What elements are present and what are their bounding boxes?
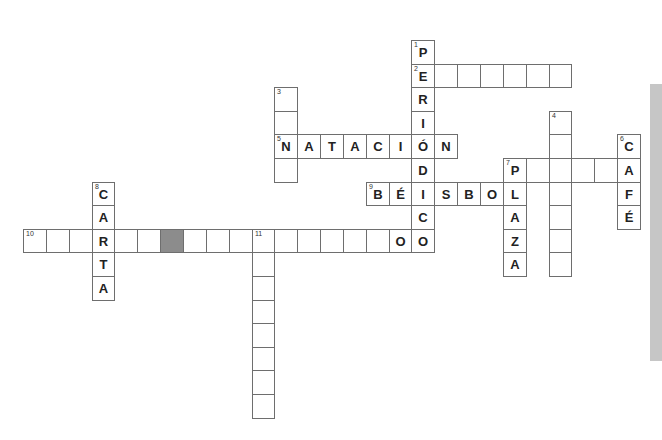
cell-letter: R — [418, 92, 427, 107]
crossword-cell[interactable]: A — [617, 158, 641, 183]
crossword-cell[interactable]: 7P — [503, 158, 527, 183]
clue-number: 9 — [369, 183, 373, 191]
cell-letter: C — [99, 187, 108, 202]
cell-letter: C — [373, 139, 382, 154]
cell-letter: O — [487, 187, 497, 202]
crossword-cell[interactable]: D — [411, 158, 435, 183]
crossword-cell[interactable] — [549, 205, 572, 230]
crossword-cell[interactable] — [137, 229, 161, 253]
cell-letter: L — [511, 187, 519, 202]
crossword-cell[interactable]: A — [297, 134, 321, 159]
crossword-cell[interactable]: A — [92, 205, 115, 230]
crossword-cell[interactable]: T — [320, 134, 344, 159]
crossword-cell[interactable]: Ó — [411, 134, 435, 159]
crossword-cell[interactable] — [549, 134, 572, 159]
crossword-cell[interactable]: 11 — [252, 229, 275, 253]
crossword-cell[interactable] — [320, 229, 344, 253]
crossword-cell[interactable]: Z — [503, 229, 527, 253]
crossword-cell[interactable] — [252, 394, 275, 419]
crossword-cell[interactable]: N — [434, 134, 458, 159]
shaded-cell — [160, 229, 184, 253]
crossword-cell[interactable]: A — [503, 205, 527, 230]
crossword-cell[interactable] — [252, 300, 275, 324]
crossword-cell[interactable] — [457, 64, 481, 88]
crossword-cell[interactable]: R — [92, 229, 115, 253]
crossword-cell[interactable] — [549, 64, 572, 88]
crossword-cell[interactable] — [274, 158, 298, 183]
crossword-cell[interactable] — [274, 229, 298, 253]
crossword-cell[interactable] — [114, 229, 138, 253]
crossword-cell[interactable]: 5N — [274, 134, 298, 159]
crossword-cell[interactable]: O — [389, 229, 412, 253]
clue-number: 2 — [414, 65, 418, 73]
crossword-cell[interactable] — [229, 229, 253, 253]
crossword-cell[interactable]: B — [457, 182, 481, 206]
crossword-cell[interactable]: R — [411, 87, 435, 112]
crossword-cell[interactable] — [252, 323, 275, 348]
crossword-cell[interactable]: I — [389, 134, 412, 159]
clue-number: 6 — [620, 135, 624, 143]
crossword-cell[interactable] — [526, 158, 550, 183]
crossword-cell[interactable]: C — [366, 134, 390, 159]
crossword-cell[interactable]: O — [411, 229, 435, 253]
crossword-cell[interactable] — [571, 158, 595, 183]
crossword-cell[interactable]: T — [92, 252, 115, 277]
clue-number: 11 — [255, 230, 262, 238]
crossword-cell[interactable] — [549, 252, 572, 277]
crossword-cell[interactable] — [594, 158, 618, 183]
cell-letter: T — [328, 139, 336, 154]
crossword-cell[interactable]: 6C — [617, 134, 641, 159]
cell-letter: I — [399, 139, 403, 154]
crossword-cell[interactable] — [183, 229, 207, 253]
crossword-cell[interactable] — [297, 229, 321, 253]
cell-letter: I — [421, 187, 425, 202]
crossword-cell[interactable] — [480, 64, 504, 88]
crossword-cell[interactable] — [252, 347, 275, 371]
cell-letter: S — [442, 187, 451, 202]
clue-number: 7 — [506, 159, 510, 167]
crossword-cell[interactable] — [526, 64, 550, 88]
crossword-cell[interactable]: 4 — [549, 111, 572, 135]
crossword-cell[interactable]: S — [434, 182, 458, 206]
crossword-cell[interactable] — [252, 276, 275, 301]
crossword-cell[interactable]: É — [617, 205, 641, 230]
crossword-cell[interactable]: O — [480, 182, 504, 206]
crossword-cell[interactable] — [206, 229, 230, 253]
crossword-cell[interactable] — [503, 64, 527, 88]
crossword-cell[interactable]: C — [411, 205, 435, 230]
crossword-cell[interactable]: É — [389, 182, 412, 206]
crossword-cell[interactable] — [274, 111, 298, 135]
cell-letter: N — [441, 139, 450, 154]
crossword-cell[interactable]: L — [503, 182, 527, 206]
crossword-cell[interactable]: I — [411, 111, 435, 135]
crossword-cell[interactable] — [252, 252, 275, 277]
cell-letter: É — [396, 187, 405, 202]
crossword-cell[interactable]: A — [503, 252, 527, 277]
side-scrollbar[interactable] — [650, 84, 662, 361]
crossword-cell[interactable]: I — [411, 182, 435, 206]
cell-letter: P — [419, 45, 428, 60]
crossword-cell[interactable]: 2E — [411, 64, 435, 88]
crossword-cell[interactable]: 3 — [274, 87, 298, 112]
crossword-cell[interactable]: A — [92, 276, 115, 301]
crossword-cell[interactable] — [252, 370, 275, 395]
crossword-cell[interactable] — [69, 229, 93, 253]
crossword-cell[interactable] — [549, 182, 572, 206]
crossword-cell[interactable]: 9B — [366, 182, 390, 206]
cell-letter: D — [418, 163, 427, 178]
crossword-cell[interactable] — [434, 64, 458, 88]
crossword-cell[interactable]: F — [617, 182, 641, 206]
crossword-cell[interactable] — [343, 229, 367, 253]
crossword-cell[interactable] — [46, 229, 70, 253]
crossword-cell[interactable] — [366, 229, 390, 253]
crossword-cell[interactable]: 1P — [411, 40, 435, 65]
cell-letter: É — [625, 210, 634, 225]
cell-letter: A — [350, 139, 359, 154]
cell-letter: R — [99, 234, 108, 249]
crossword-cell[interactable]: A — [343, 134, 367, 159]
crossword-cell[interactable] — [549, 229, 572, 253]
crossword-cell[interactable] — [549, 158, 572, 183]
crossword-cell[interactable]: 10 — [23, 229, 47, 253]
cell-letter: B — [464, 187, 473, 202]
crossword-cell[interactable]: 8C — [92, 182, 115, 206]
